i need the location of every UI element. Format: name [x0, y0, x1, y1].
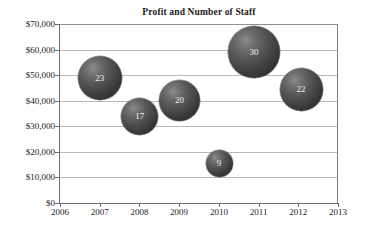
- x-tick-label-2011: 2011: [250, 207, 268, 217]
- x-tick-label-2010: 2010: [210, 207, 228, 217]
- bubble-label-2007: 23: [95, 74, 104, 83]
- bubble-2012[interactable]: 22: [280, 68, 323, 111]
- bubble-2010[interactable]: 9: [206, 150, 233, 177]
- y-tick-label-60000: $60,000: [26, 45, 55, 55]
- bubble-2007[interactable]: 23: [78, 56, 122, 100]
- y-tick-label-50000: $50,000: [26, 70, 55, 80]
- bubble-label-2009: 20: [175, 96, 184, 105]
- bubble-chart: Profit and Number of Staff $70,000 $60,0…: [0, 0, 366, 238]
- x-tick-label-2008: 2008: [130, 207, 148, 217]
- y-axis-line: [59, 24, 60, 204]
- chart-title: Profit and Number of Staff: [60, 7, 338, 17]
- y-tick-label-30000: $30,000: [26, 121, 55, 131]
- y-tick-label-20000: $20,000: [26, 147, 55, 157]
- x-tick-label-2009: 2009: [170, 207, 188, 217]
- x-tick-label-2013: 2013: [329, 207, 347, 217]
- x-tick-label-2012: 2012: [289, 207, 307, 217]
- y-tick-label-70000: $70,000: [26, 19, 55, 29]
- bubble-label-2010: 9: [217, 159, 222, 168]
- gridline-60000: [60, 50, 338, 51]
- bubble-2008[interactable]: 17: [121, 98, 158, 135]
- bubble-2009[interactable]: 20: [159, 80, 200, 121]
- y-tick-label-10000: $10,000: [26, 172, 55, 182]
- x-tick-label-2007: 2007: [91, 207, 109, 217]
- bubble-label-2011: 30: [250, 48, 259, 57]
- bubble-label-2012: 22: [297, 85, 306, 94]
- bubble-2011[interactable]: 30: [228, 26, 280, 78]
- gridline-70000: [60, 24, 338, 25]
- x-tick-label-2006: 2006: [51, 207, 69, 217]
- gridline-30000: [60, 126, 338, 127]
- x-axis-line: [60, 203, 338, 204]
- gridline-20000: [60, 152, 338, 153]
- bubble-label-2008: 17: [135, 112, 144, 121]
- plot-area: 23 17 20 9 30 22: [60, 24, 338, 203]
- y-tick-label-40000: $40,000: [26, 96, 55, 106]
- plot-right-border: [337, 24, 338, 203]
- gridline-10000: [60, 177, 338, 178]
